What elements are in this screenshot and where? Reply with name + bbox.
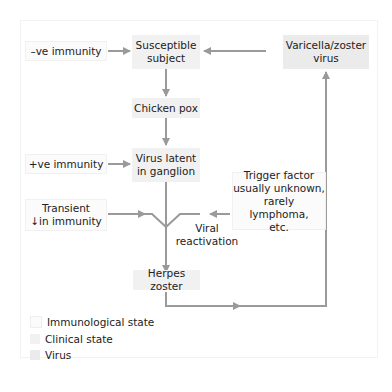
susceptible-label-line2: subject [147,52,185,65]
pos-immunity-box: +ve immunity [25,154,107,174]
legend-swatch-clinical [30,334,40,344]
trigger-label-line2: usually unknown, [233,182,325,195]
virus-latent-box: Virus latent in ganglion [132,148,200,182]
legend-label-immunological: Immunological state [47,316,154,328]
trigger-label-line4: etc. [269,221,289,234]
trigger-label-line3: rarely lymphoma, [233,195,325,221]
susceptible-label-line1: Susceptible [136,39,197,52]
vzv-label-line1: Varicella/zoster [286,39,366,52]
transient-label-line1: Transient [42,202,90,215]
herpes-zoster-box: Herpes zoster [133,270,200,290]
viral-reactivation-label: Viral reactivation [172,220,242,250]
pos-immunity-label: +ve immunity [29,158,104,171]
transient-immunity-box: Transient ↓in immunity [25,199,107,231]
chicken-pox-label: Chicken pox [134,102,198,115]
neg-immunity-box: –ve immunity [25,41,107,61]
arrow-transient-join [108,214,166,227]
vzv-label-line2: virus [313,52,339,65]
legend-clinical: Clinical state [30,333,113,345]
legend-label-virus: Virus [45,349,71,361]
latent-label-line1: Virus latent [136,152,196,165]
legend-virus: Virus [30,349,71,361]
legend-immunological: Immunological state [30,316,154,328]
legend-label-clinical: Clinical state [45,333,113,345]
neg-immunity-label: –ve immunity [30,45,101,58]
legend-swatch-virus [30,350,40,360]
susceptible-subject-box: Susceptible subject [132,35,200,69]
chicken-pox-box: Chicken pox [132,98,200,118]
trigger-label-line1: Trigger factor [244,169,314,182]
reactivation-label-line2: reactivation [176,235,239,248]
latent-label-line2: in ganglion [137,165,195,178]
transient-label-line2: ↓in immunity [30,215,102,228]
herpes-zoster-label: Herpes zoster [133,267,200,293]
varicella-zoster-virus-box: Varicella/zoster virus [283,35,369,69]
legend-swatch-immunological [30,316,42,328]
trigger-factor-box: Trigger factor usually unknown, rarely l… [232,172,326,230]
reactivation-label-line1: Viral [195,222,219,235]
